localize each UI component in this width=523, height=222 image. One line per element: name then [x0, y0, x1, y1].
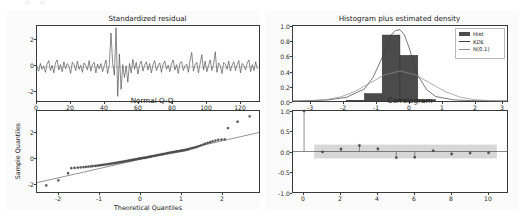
- tick-y-resid-0: 0: [23, 62, 34, 69]
- tick-y-acf-0.5: 0.5: [268, 128, 290, 135]
- tickmark-x-acf-8: [451, 193, 452, 195]
- normal-line-icon: [459, 49, 470, 50]
- tickmark-x-hist-m3: [310, 102, 311, 104]
- tick-y-hist-1.0: 1.0: [270, 23, 290, 30]
- tickmark-x-qq-2: [222, 193, 223, 195]
- legend-label-hist: Hist: [473, 31, 483, 37]
- tickmark-x-qq-m2: [58, 193, 59, 195]
- tickmark-x-resid-0: [36, 102, 37, 104]
- tick-x-qq-1: 1: [179, 195, 183, 202]
- tickmark-y-qq-0: [34, 158, 36, 159]
- tick-y-acf-1.0: 1.0: [268, 108, 290, 115]
- tickmark-y-hist-0.0: [290, 102, 292, 103]
- tick-x-qq-0: 0: [138, 195, 142, 202]
- top-artifact-b: [40, 1, 45, 4]
- tickmark-y-acf-1.0: [290, 111, 292, 112]
- tickmark-x-acf-6: [414, 193, 415, 195]
- tick-x-acf-10: 10: [484, 195, 492, 202]
- histogram-legend: Hist KDE N(0,1): [455, 28, 505, 59]
- tick-x-acf-8: 8: [449, 195, 453, 202]
- legend-item-hist: Hist: [459, 31, 501, 38]
- top-artifact-a: [25, 1, 30, 4]
- normal-qq-title: Normal Q-Q: [92, 96, 212, 105]
- tick-x-acf-6: 6: [412, 195, 416, 202]
- tickmark-y-hist-0.2: [290, 87, 292, 88]
- tickmark-x-acf-0: [303, 193, 304, 195]
- tickmark-x-hist-3: [502, 102, 503, 104]
- tick-x-qq-2: 2: [220, 195, 224, 202]
- legend-item-kde: KDE: [459, 39, 501, 46]
- tick-x-acf-0: 0: [301, 195, 305, 202]
- tickmark-y-acf-m0.5: [290, 172, 292, 173]
- tick-y-hist-0.8: 0.8: [270, 38, 290, 45]
- tick-y-hist-0.6: 0.6: [270, 53, 290, 60]
- hist-swatch-icon: [459, 32, 470, 36]
- tick-y-acf-0.0: 0.0: [268, 149, 290, 156]
- panel-normal-qq: Sample Quantiles Theoretical Quantiles 2…: [0, 106, 262, 222]
- tick-y-resid-2: 2: [23, 36, 34, 43]
- normal-qq-xlabel: Theoretical Quantiles: [88, 204, 208, 212]
- tickmark-x-hist-m2: [343, 102, 344, 104]
- tickmark-x-qq-0: [140, 193, 141, 195]
- panel-standardized-residual: Standardized residual 2 0 -2 0 20 40 60 …: [0, 11, 262, 103]
- tick-y-acf-m1.0: -1.0: [266, 190, 290, 197]
- tick-x-qq-m1: -1: [96, 195, 102, 202]
- tickmark-x-acf-10: [488, 193, 489, 195]
- tickmark-x-qq-1: [181, 193, 182, 195]
- legend-item-normal: N(0,1): [459, 46, 501, 53]
- legend-label-normal: N(0,1): [473, 46, 490, 52]
- diagnostics-figure: Standardized residual 2 0 -2 0 20 40 60 …: [0, 0, 523, 222]
- panel-correlogram: 1.0 0.5 0.0 -0.5 -1.0 0 2 4 6 8 10: [262, 106, 523, 222]
- tickmark-y-qq-2: [34, 132, 36, 133]
- tickmark-y-resid-m2: [34, 91, 36, 92]
- tickmark-y-qq-m2: [34, 184, 36, 185]
- tick-x-qq-m2: -2: [55, 195, 61, 202]
- tickmark-y-resid-0: [34, 65, 36, 66]
- tickmark-y-hist-0.6: [290, 56, 292, 57]
- tickmark-x-acf-2: [340, 193, 341, 195]
- tick-y-qq-2: 2: [23, 129, 34, 136]
- correlogram-title: Correlogram: [355, 96, 465, 105]
- tick-y-resid-m2: -2: [21, 88, 34, 95]
- standardized-residual-plot: [0, 11, 262, 103]
- tick-y-qq-m2: -2: [21, 181, 34, 188]
- tickmark-x-acf-4: [377, 193, 378, 195]
- tickmark-y-acf-0.0: [290, 152, 292, 153]
- tickmark-x-hist-2: [475, 102, 476, 104]
- tickmark-y-acf-m1.0: [290, 193, 292, 194]
- tickmark-x-qq-m1: [99, 193, 100, 195]
- correlogram-plot: [262, 106, 523, 222]
- tickmark-y-acf-0.5: [290, 131, 292, 132]
- panel-histogram: Histogram plus estimated density Hist KD…: [262, 11, 523, 103]
- tick-y-hist-0.2: 0.2: [270, 84, 290, 91]
- tickmark-x-resid-20: [70, 102, 71, 104]
- kde-line-icon: [459, 41, 470, 42]
- tick-x-acf-4: 4: [375, 195, 379, 202]
- normal-qq-ylabel: Sample Quantiles: [14, 111, 22, 191]
- tickmark-y-hist-0.8: [290, 41, 292, 42]
- tick-y-qq-0: 0: [23, 155, 34, 162]
- tickmark-y-hist-0.4: [290, 72, 292, 73]
- legend-label-kde: KDE: [473, 39, 484, 45]
- tick-y-hist-0.0: 0.0: [270, 99, 290, 106]
- tick-y-hist-0.4: 0.4: [270, 69, 290, 76]
- tickmark-x-resid-120: [240, 102, 241, 104]
- tickmark-y-hist-1.0: [290, 26, 292, 27]
- tick-y-acf-m0.5: -0.5: [266, 169, 290, 176]
- tickmark-y-resid-2: [34, 39, 36, 40]
- tick-x-acf-2: 2: [338, 195, 342, 202]
